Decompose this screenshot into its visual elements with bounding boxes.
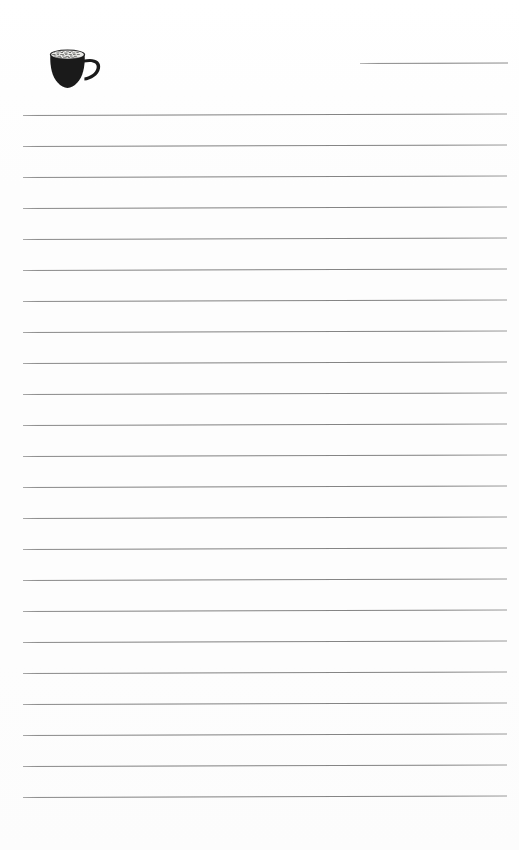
ruled-line[interactable]: [23, 764, 507, 767]
ruled-line[interactable]: [23, 144, 507, 147]
ruled-line[interactable]: [23, 175, 507, 178]
ruled-line[interactable]: [23, 361, 507, 364]
ruled-line[interactable]: [23, 578, 507, 581]
ruled-line[interactable]: [23, 113, 507, 116]
ruled-line[interactable]: [23, 268, 507, 271]
notepaper-page: [0, 0, 519, 850]
ruled-line[interactable]: [23, 547, 507, 550]
ruled-line[interactable]: [23, 206, 507, 209]
ruled-line[interactable]: [23, 485, 507, 488]
ruled-line[interactable]: [23, 609, 507, 612]
ruled-line[interactable]: [23, 516, 507, 519]
ruled-line[interactable]: [23, 702, 507, 705]
ruled-line[interactable]: [23, 330, 507, 333]
ruled-line[interactable]: [23, 795, 507, 798]
ruled-lines-area: [0, 0, 519, 850]
ruled-line[interactable]: [23, 671, 507, 674]
ruled-line[interactable]: [23, 392, 507, 395]
ruled-line[interactable]: [23, 640, 507, 643]
ruled-line[interactable]: [23, 299, 507, 302]
ruled-line[interactable]: [23, 423, 507, 426]
ruled-line[interactable]: [23, 733, 507, 736]
ruled-line[interactable]: [23, 454, 507, 457]
ruled-line[interactable]: [23, 237, 507, 240]
